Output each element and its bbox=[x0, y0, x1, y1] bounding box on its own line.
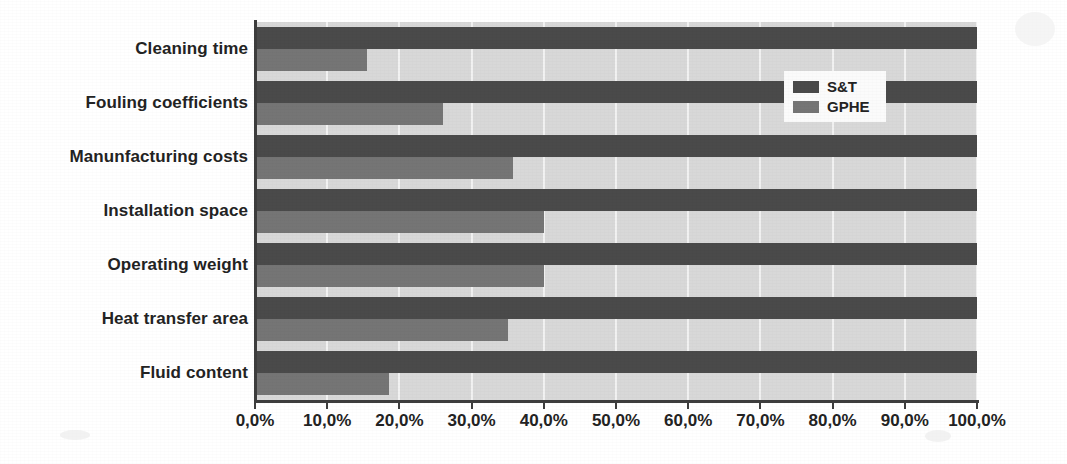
x-axis-tick bbox=[471, 400, 473, 409]
bar-gphe-heat-transfer-area bbox=[255, 319, 508, 341]
bar-gphe-fouling-coefficients bbox=[255, 103, 443, 125]
bar-gphe-fluid-content bbox=[255, 373, 389, 395]
x-axis-tick bbox=[398, 400, 400, 409]
category-label: Manunfacturing costs bbox=[2, 147, 248, 167]
x-axis-tick bbox=[832, 400, 834, 409]
category-label: Installation space bbox=[2, 201, 248, 221]
gridline bbox=[759, 22, 761, 400]
gridline bbox=[976, 22, 977, 400]
chart-legend: S&TGPHE bbox=[784, 71, 886, 122]
x-axis-tick bbox=[615, 400, 617, 409]
x-axis-tick bbox=[687, 400, 689, 409]
bar-s-t-manunfacturing-costs bbox=[255, 135, 977, 157]
scan-smudge bbox=[1015, 12, 1055, 46]
bar-s-t-fluid-content bbox=[255, 351, 977, 373]
x-axis-tick-label: 0,0% bbox=[236, 411, 275, 431]
x-axis-tick-label: 70,0% bbox=[736, 411, 784, 431]
category-label: Heat transfer area bbox=[2, 309, 248, 329]
x-axis-tick bbox=[976, 400, 978, 409]
bar-s-t-operating-weight bbox=[255, 243, 977, 265]
x-axis-tick-label: 20,0% bbox=[375, 411, 423, 431]
x-axis-tick-label: 90,0% bbox=[881, 411, 929, 431]
legend-label: S&T bbox=[827, 79, 857, 94]
x-axis-tick-label: 100,0% bbox=[948, 411, 1006, 431]
scan-smudge bbox=[925, 430, 951, 442]
legend-swatch-icon bbox=[793, 81, 819, 93]
scan-smudge bbox=[60, 430, 90, 440]
x-axis-line bbox=[255, 400, 979, 403]
bar-chart: Cleaning timeFouling coefficientsManunfa… bbox=[0, 0, 1067, 464]
x-axis-tick bbox=[759, 400, 761, 409]
x-axis-tick-label: 30,0% bbox=[447, 411, 495, 431]
category-label: Cleaning time bbox=[2, 39, 248, 59]
bar-gphe-cleaning-time bbox=[255, 49, 367, 71]
category-label: Fouling coefficients bbox=[2, 93, 248, 113]
x-axis-tick-label: 10,0% bbox=[303, 411, 351, 431]
gridline bbox=[904, 22, 906, 400]
bar-s-t-cleaning-time bbox=[255, 27, 977, 49]
x-axis-tick bbox=[543, 400, 545, 409]
x-axis-tick-label: 40,0% bbox=[520, 411, 568, 431]
category-axis: Cleaning timeFouling coefficientsManunfa… bbox=[0, 22, 248, 400]
x-axis-tick-label: 60,0% bbox=[664, 411, 712, 431]
bar-s-t-heat-transfer-area bbox=[255, 297, 977, 319]
bar-s-t-installation-space bbox=[255, 189, 977, 211]
gridline bbox=[615, 22, 617, 400]
category-label: Fluid content bbox=[2, 363, 248, 383]
legend-entry: S&T bbox=[793, 78, 870, 95]
x-axis-tick-label: 50,0% bbox=[592, 411, 640, 431]
bar-gphe-operating-weight bbox=[255, 265, 544, 287]
legend-label: GPHE bbox=[827, 99, 870, 114]
bar-gphe-installation-space bbox=[255, 211, 544, 233]
category-label: Operating weight bbox=[2, 255, 248, 275]
x-axis-tick-label: 80,0% bbox=[808, 411, 856, 431]
y-axis-line bbox=[254, 20, 257, 402]
x-axis-tick bbox=[254, 400, 256, 409]
legend-swatch-icon bbox=[793, 101, 819, 113]
x-axis-tick bbox=[904, 400, 906, 409]
x-axis-tick bbox=[326, 400, 328, 409]
gridline bbox=[687, 22, 689, 400]
bar-gphe-manunfacturing-costs bbox=[255, 157, 513, 179]
legend-entry: GPHE bbox=[793, 98, 870, 115]
